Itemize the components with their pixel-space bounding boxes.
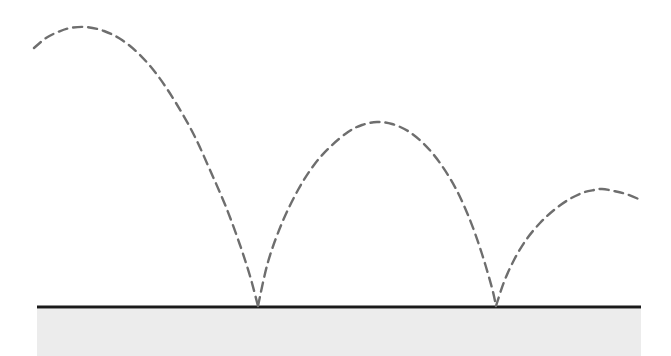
ground-fill-band — [37, 309, 641, 356]
figure-canvas — [0, 0, 671, 356]
bouncing-trajectory-figure — [0, 0, 671, 356]
trajectory-arc-2 — [258, 122, 496, 306]
trajectory-arc-1 — [34, 27, 258, 306]
trajectory-arc-3 — [496, 189, 641, 306]
